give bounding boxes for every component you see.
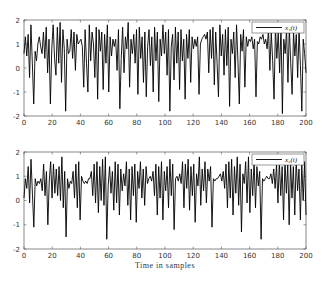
x-tick-label: 160 xyxy=(243,119,256,127)
x-tick-label: 120 xyxy=(187,252,200,260)
y-tick-label: -1 xyxy=(13,221,20,229)
x-tick-label: 20 xyxy=(48,252,57,260)
x-tick-label: 0 xyxy=(22,252,26,260)
legend-label: x₂(t) xyxy=(284,156,298,164)
y-tick-label: 1 xyxy=(16,41,20,49)
x-tick-label: 180 xyxy=(271,252,284,260)
y-tick-label: 2 xyxy=(16,149,20,157)
x-tick-label: 140 xyxy=(215,252,228,260)
figure: 020406080100120140160180200-2-1012x₁(t) … xyxy=(0,0,328,281)
x-tick-label: 200 xyxy=(299,119,312,127)
y-tick-label: 0 xyxy=(16,65,20,73)
legend: x₁(t) xyxy=(252,22,304,33)
y-tick-label: -2 xyxy=(13,113,20,121)
plot-x1: 020406080100120140160180200-2-1012x₁(t) xyxy=(13,17,313,128)
x-tick-label: 120 xyxy=(187,119,200,127)
x-tick-label: 140 xyxy=(215,119,228,127)
x-tick-label: 100 xyxy=(158,119,171,127)
x-tick-label: 80 xyxy=(132,119,141,127)
x-tick-label: 60 xyxy=(104,119,113,127)
x-tick-label: 40 xyxy=(76,119,85,127)
x-tick-label: 0 xyxy=(22,119,26,127)
x-tick-label: 160 xyxy=(243,252,256,260)
legend: x₂(t) xyxy=(252,154,304,165)
plot-x2: 020406080100120140160180200-2-1012x₂(t)T… xyxy=(13,149,313,271)
legend-label: x₁(t) xyxy=(284,24,298,32)
x-tick-label: 40 xyxy=(76,252,85,260)
x-tick-label: 200 xyxy=(299,252,312,260)
y-tick-label: -2 xyxy=(13,246,20,254)
y-tick-label: 2 xyxy=(16,17,20,25)
x-tick-label: 80 xyxy=(132,252,141,260)
y-tick-label: 1 xyxy=(16,173,20,181)
y-tick-label: -1 xyxy=(13,89,20,97)
x-tick-label: 180 xyxy=(271,119,284,127)
x-tick-label: 100 xyxy=(158,252,171,260)
x-tick-label: 60 xyxy=(104,252,113,260)
x-tick-label: 20 xyxy=(48,119,57,127)
y-tick-label: 0 xyxy=(16,197,20,205)
x-axis-label: Time in samples xyxy=(135,261,195,270)
